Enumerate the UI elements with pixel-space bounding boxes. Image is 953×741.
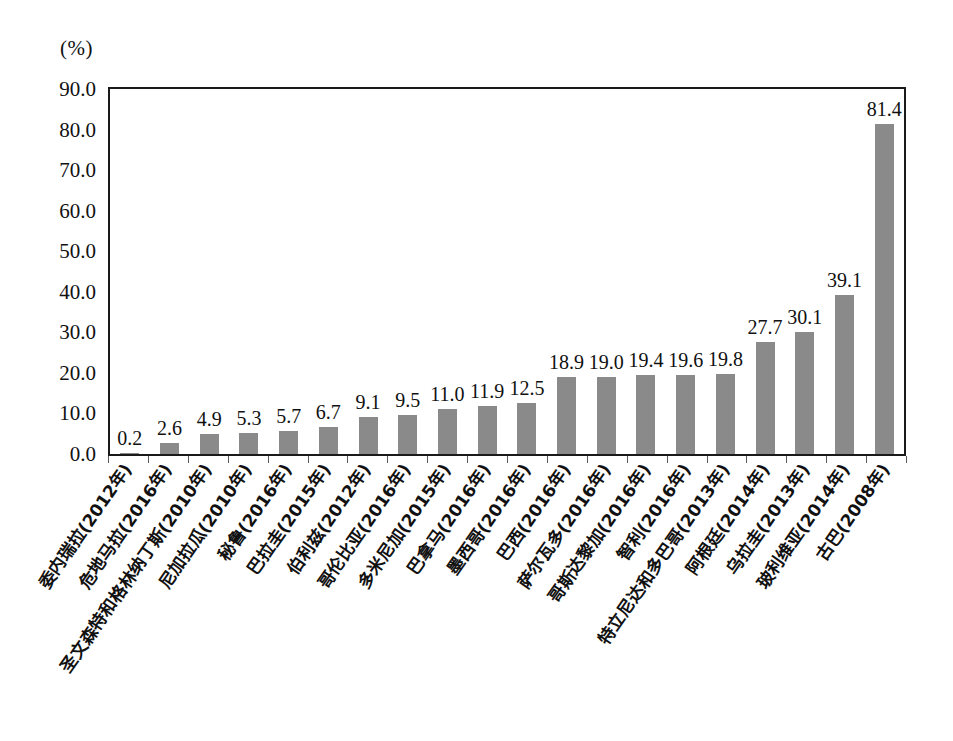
x-axis-tick-mark <box>347 456 348 463</box>
y-axis-tick-label: 0.0 <box>70 442 96 467</box>
bar-slot: 27.7 <box>745 89 785 454</box>
bar-slot: 30.1 <box>785 89 825 454</box>
bar-slot: 6.7 <box>309 89 349 454</box>
bar[interactable] <box>438 409 457 454</box>
bar-slot: 4.9 <box>189 89 229 454</box>
x-axis-tick-mark <box>148 456 149 463</box>
bar-slot: 11.9 <box>467 89 507 454</box>
x-axis-tick-mark <box>826 456 827 463</box>
bar[interactable] <box>795 332 814 454</box>
bar-slot: 19.0 <box>586 89 626 454</box>
x-axis-tick-mark <box>746 456 747 463</box>
bar-slot: 5.3 <box>229 89 269 454</box>
bar-slot: 81.4 <box>864 89 904 454</box>
bar[interactable] <box>239 433 258 454</box>
x-axis-tick-mark <box>188 456 189 463</box>
bar-value-label: 2.6 <box>157 417 182 440</box>
bar-value-label: 11.0 <box>430 383 464 406</box>
x-axis-tick-mark <box>587 456 588 463</box>
y-axis-tick-label: 10.0 <box>59 401 96 426</box>
bar[interactable] <box>160 443 179 454</box>
bar[interactable] <box>676 375 695 454</box>
y-axis-tick-label: 50.0 <box>59 239 96 264</box>
x-axis-labels: 委内瑞拉(2012年)危地马拉(2016年)圣文森特和格林纳丁斯(2010年)尼… <box>108 466 906 716</box>
bars-layer: 0.22.64.95.35.76.79.19.511.011.912.518.9… <box>110 89 904 454</box>
y-axis-tick-label: 40.0 <box>59 279 96 304</box>
bar-value-label: 11.9 <box>470 380 504 403</box>
bar-value-label: 19.6 <box>668 349 703 372</box>
x-axis-tick-mark <box>707 456 708 463</box>
x-axis-tick-mark <box>228 456 229 463</box>
bar-slot: 11.0 <box>428 89 468 454</box>
bar[interactable] <box>597 377 616 454</box>
bar-value-label: 0.2 <box>117 427 142 450</box>
bar[interactable] <box>359 417 378 454</box>
bar[interactable] <box>398 415 417 454</box>
bar-slot: 5.7 <box>269 89 309 454</box>
bar-value-label: 39.1 <box>827 269 862 292</box>
bar-slot: 9.5 <box>388 89 428 454</box>
x-axis-tick-mark <box>547 456 548 463</box>
y-axis-tick-label: 80.0 <box>59 117 96 142</box>
bar-value-label: 6.7 <box>316 401 341 424</box>
x-axis-tick-mark <box>427 456 428 463</box>
x-axis-tick-mark <box>627 456 628 463</box>
bar-value-label: 18.9 <box>549 351 584 374</box>
bar-slot: 0.2 <box>110 89 150 454</box>
bar-value-label: 5.7 <box>276 405 301 428</box>
x-axis-tick-mark <box>906 456 907 463</box>
bar[interactable] <box>756 342 775 454</box>
bar[interactable] <box>716 374 735 454</box>
bar-value-label: 27.7 <box>748 316 783 339</box>
y-axis-tick-label: 90.0 <box>59 77 96 102</box>
y-axis-tick-label: 30.0 <box>59 320 96 345</box>
x-axis-tick-mark <box>467 456 468 463</box>
bar-value-label: 19.4 <box>628 349 663 372</box>
bar-value-label: 9.1 <box>356 391 381 414</box>
bar-value-label: 81.4 <box>867 98 902 121</box>
bar[interactable] <box>875 124 894 454</box>
x-axis-tick-mark <box>387 456 388 463</box>
x-axis-tick-mark <box>308 456 309 463</box>
bar[interactable] <box>319 427 338 454</box>
bar-value-label: 4.9 <box>197 408 222 431</box>
x-axis-tick-mark <box>507 456 508 463</box>
y-axis: 0.010.020.030.040.050.060.070.080.090.0 <box>0 87 104 456</box>
x-axis-tick-mark <box>268 456 269 463</box>
bar-slot: 9.1 <box>348 89 388 454</box>
bar[interactable] <box>835 295 854 454</box>
bar[interactable] <box>636 375 655 454</box>
bar-chart: (%) 0.010.020.030.040.050.060.070.080.09… <box>0 0 953 741</box>
bar-slot: 18.9 <box>547 89 587 454</box>
bar-value-label: 19.8 <box>708 348 743 371</box>
bar[interactable] <box>200 434 219 454</box>
x-axis-tick-mark <box>108 456 109 463</box>
bar-slot: 19.8 <box>706 89 746 454</box>
bar-slot: 12.5 <box>507 89 547 454</box>
bar[interactable] <box>120 453 139 454</box>
y-axis-tick-label: 20.0 <box>59 360 96 385</box>
bar-slot: 19.4 <box>626 89 666 454</box>
x-axis-tick-mark <box>786 456 787 463</box>
bar-slot: 2.6 <box>150 89 190 454</box>
bar-value-label: 9.5 <box>395 389 420 412</box>
x-axis-ticks <box>108 456 906 464</box>
bar[interactable] <box>557 377 576 454</box>
bar[interactable] <box>517 403 536 454</box>
bar-value-label: 19.0 <box>589 351 624 374</box>
x-axis-tick-mark <box>866 456 867 463</box>
x-axis-tick-mark <box>667 456 668 463</box>
y-axis-tick-label: 60.0 <box>59 198 96 223</box>
bar[interactable] <box>478 406 497 454</box>
bar-value-label: 12.5 <box>509 377 544 400</box>
bar-slot: 19.6 <box>666 89 706 454</box>
bar-slot: 39.1 <box>825 89 865 454</box>
y-axis-tick-label: 70.0 <box>59 158 96 183</box>
y-axis-unit-label: (%) <box>60 36 93 61</box>
bar-value-label: 5.3 <box>236 407 261 430</box>
bar-value-label: 30.1 <box>787 306 822 329</box>
bar[interactable] <box>279 431 298 454</box>
